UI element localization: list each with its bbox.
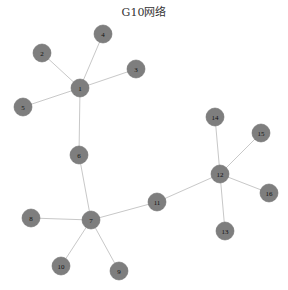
node-8: 8 xyxy=(22,209,40,227)
node-label: 2 xyxy=(40,50,44,58)
node-label: 7 xyxy=(89,217,93,225)
node-7: 7 xyxy=(82,211,100,229)
node-5: 5 xyxy=(14,98,32,116)
node-4: 4 xyxy=(94,25,112,43)
node-label: 13 xyxy=(222,228,230,236)
node-1: 1 xyxy=(71,79,89,97)
node-label: 9 xyxy=(117,268,121,276)
node-14: 14 xyxy=(206,108,224,126)
node-label: 4 xyxy=(101,31,105,39)
node-15: 15 xyxy=(252,124,270,142)
node-label: 15 xyxy=(258,130,266,138)
node-12: 12 xyxy=(211,165,229,183)
node-label: 14 xyxy=(212,114,220,122)
node-label: 16 xyxy=(266,190,274,198)
node-label: 3 xyxy=(134,66,138,74)
edge-1-6 xyxy=(79,88,80,155)
node-3: 3 xyxy=(127,60,145,78)
node-11: 11 xyxy=(148,193,166,211)
edge-7-11 xyxy=(91,202,157,220)
node-2: 2 xyxy=(33,44,51,62)
edge-6-7 xyxy=(79,155,91,220)
node-10: 10 xyxy=(52,257,70,275)
node-label: 11 xyxy=(154,199,161,207)
node-6: 6 xyxy=(70,146,88,164)
node-label: 8 xyxy=(29,215,33,223)
node-13: 13 xyxy=(216,222,234,240)
edge-11-12 xyxy=(157,174,220,202)
node-label: 1 xyxy=(78,85,82,93)
node-label: 6 xyxy=(77,152,81,160)
graph-title: G10网络 xyxy=(122,5,167,19)
node-label: 5 xyxy=(21,104,25,112)
node-label: 10 xyxy=(58,263,66,271)
node-16: 16 xyxy=(260,184,278,202)
node-label: 12 xyxy=(217,171,225,179)
node-9: 9 xyxy=(110,262,128,280)
network-graph: G10网络 12345678910111213141516 xyxy=(0,0,288,290)
